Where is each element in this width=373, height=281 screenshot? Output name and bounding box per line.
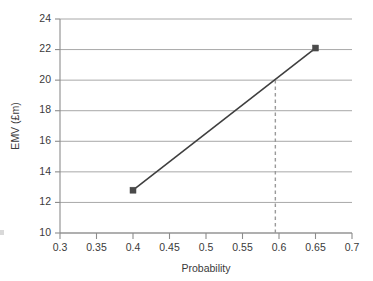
page-edge-artifact [0, 230, 4, 235]
x-tick-label-0.45: 0.45 [159, 241, 180, 253]
emv-vs-probability-line-chart: 1012141618202224 0.30.350.40.450.50.550.… [0, 0, 373, 281]
x-axis-title: Probability [181, 262, 231, 274]
y-tick-label-18: 18 [39, 103, 51, 115]
x-tick-label-0.4: 0.4 [126, 241, 141, 253]
x-tick-label-0.3: 0.3 [53, 241, 68, 253]
y-tick-label-22: 22 [39, 42, 51, 54]
data-point-marker [130, 187, 136, 193]
y-tick-label-10: 10 [39, 226, 51, 238]
y-tick-label-14: 14 [39, 165, 51, 177]
x-axis-tick-labels: 0.30.350.40.450.50.550.60.650.7 [53, 241, 360, 253]
x-tick-label-0.5: 0.5 [199, 241, 214, 253]
x-tick-label-0.35: 0.35 [86, 241, 107, 253]
x-tick-label-0.65: 0.65 [305, 241, 326, 253]
x-tick-label-0.6: 0.6 [272, 241, 287, 253]
y-tick-label-16: 16 [39, 134, 51, 146]
y-tick-label-20: 20 [39, 73, 51, 85]
y-tick-label-12: 12 [39, 195, 51, 207]
y-axis-title: EMV (£m) [9, 102, 21, 149]
y-tick-label-24: 24 [39, 12, 51, 24]
chart-container: 1012141618202224 0.30.350.40.450.50.550.… [0, 0, 373, 281]
chart-background [0, 0, 373, 281]
x-tick-label-0.55: 0.55 [232, 241, 253, 253]
data-point-marker [313, 45, 319, 51]
x-tick-label-0.7: 0.7 [345, 241, 360, 253]
